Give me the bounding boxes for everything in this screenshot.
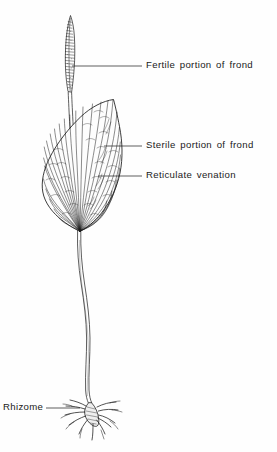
rhizome-group bbox=[61, 400, 122, 440]
stalk-shading bbox=[79, 240, 88, 396]
label-reticulate-venation: Reticulate venation bbox=[146, 170, 236, 180]
fertile-spike-outline bbox=[65, 16, 74, 93]
common-stalk-group bbox=[77, 231, 91, 403]
stalk-left-edge bbox=[77, 231, 88, 403]
root bbox=[98, 418, 111, 427]
root bbox=[70, 400, 86, 406]
label-rhizome: Rhizome bbox=[3, 402, 43, 412]
botanical-figure: Fertile portion of frond Sterile portion… bbox=[0, 0, 277, 452]
sterile-blade-group bbox=[42, 100, 122, 232]
root bbox=[79, 420, 87, 434]
root bbox=[97, 420, 105, 434]
label-fertile-portion: Fertile portion of frond bbox=[146, 60, 253, 70]
rhizome-body bbox=[85, 403, 99, 426]
root bbox=[97, 402, 116, 407]
root bbox=[66, 406, 85, 409]
root bbox=[92, 424, 93, 440]
label-sterile-portion: Sterile portion of frond bbox=[146, 140, 254, 150]
fertile-spike-group bbox=[65, 16, 74, 93]
root bbox=[99, 415, 115, 423]
